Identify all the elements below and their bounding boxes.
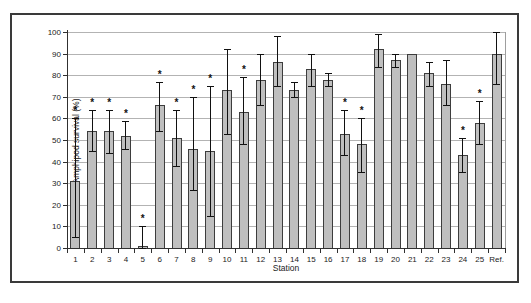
y-tick-label: 60	[25, 114, 61, 123]
error-bar	[395, 54, 396, 67]
y-tick-label: 40	[25, 158, 61, 167]
error-bar-cap-top	[341, 110, 348, 111]
error-bar-cap-bottom	[325, 86, 332, 87]
plot-right-border	[505, 32, 506, 248]
error-bar-cap-bottom	[375, 67, 382, 68]
error-bar-cap-top	[308, 54, 315, 55]
error-bar-cap-bottom	[224, 134, 231, 135]
error-bar-cap-top	[392, 54, 399, 55]
bar-station-20	[391, 60, 401, 248]
error-bar	[243, 77, 244, 144]
x-axis-tick	[168, 249, 169, 253]
error-bar-cap-top	[240, 77, 247, 78]
y-tick-label: 10	[25, 222, 61, 231]
y-tick-label: 90	[25, 50, 61, 59]
error-bar-cap-bottom	[341, 155, 348, 156]
significance-asterisk: *	[86, 98, 98, 108]
error-bar-cap-top	[274, 36, 281, 37]
bar-station-19	[374, 49, 384, 248]
y-tick-label: 100	[25, 28, 61, 37]
y-tick-label: 0	[25, 244, 61, 253]
error-bar-cap-top	[89, 110, 96, 111]
x-axis-tick	[353, 249, 354, 253]
x-axis-tick	[101, 249, 102, 253]
x-axis-tick	[421, 249, 422, 253]
error-bar-cap-bottom	[358, 172, 365, 173]
error-bar	[496, 32, 497, 84]
error-bar	[429, 62, 430, 86]
x-axis-tick	[370, 249, 371, 253]
y-axis-line	[67, 30, 68, 249]
x-axis-tick	[67, 249, 68, 253]
significance-asterisk: *	[474, 89, 486, 99]
error-bar-cap-top	[493, 32, 500, 33]
error-bar-cap-bottom	[493, 84, 500, 85]
error-bar-cap-bottom	[426, 86, 433, 87]
bar-station-23	[441, 84, 451, 248]
error-bar-cap-top	[224, 49, 231, 50]
bar-station-15	[306, 69, 316, 248]
significance-asterisk: *	[356, 106, 368, 116]
significance-asterisk: *	[171, 98, 183, 108]
y-tick-label: 50	[25, 136, 61, 145]
gridline	[67, 205, 505, 206]
error-bar-cap-top	[190, 97, 197, 98]
error-bar-cap-bottom	[207, 216, 214, 217]
x-axis-tick	[488, 249, 489, 253]
x-axis-tick	[454, 249, 455, 253]
significance-asterisk: *	[238, 65, 250, 75]
error-bar	[176, 110, 177, 166]
error-bar-cap-bottom	[122, 149, 129, 150]
significance-asterisk: *	[120, 109, 132, 119]
error-bar	[361, 118, 362, 172]
error-bar	[142, 226, 143, 248]
chart-figure: Amphipod survival (%)0102030405060708090…	[0, 0, 531, 303]
x-axis-tick	[286, 249, 287, 253]
gridline	[67, 97, 505, 98]
error-bar-cap-top	[459, 138, 466, 139]
error-bar	[75, 118, 76, 237]
error-bar	[227, 49, 228, 133]
x-axis-tick	[219, 249, 220, 253]
error-bar-cap-bottom	[443, 105, 450, 106]
plot-area: Amphipod survival (%)0102030405060708090…	[67, 32, 505, 248]
gridline	[67, 54, 505, 55]
x-axis-tick	[438, 249, 439, 253]
bar-station-22	[424, 73, 434, 248]
error-bar-cap-top	[443, 60, 450, 61]
error-bar-cap-top	[139, 226, 146, 227]
gridline	[67, 75, 505, 76]
y-tick-label: 70	[25, 93, 61, 102]
x-axis-tick	[118, 249, 119, 253]
error-bar-cap-bottom	[476, 144, 483, 145]
error-bar	[446, 60, 447, 105]
x-axis-tick	[134, 249, 135, 253]
error-bar-cap-top	[476, 101, 483, 102]
gridline	[67, 32, 505, 33]
x-axis-tick	[202, 249, 203, 253]
x-axis-tick	[320, 249, 321, 253]
significance-asterisk: *	[187, 85, 199, 95]
error-bar	[294, 82, 295, 97]
error-bar-cap-bottom	[308, 86, 315, 87]
bar-station-14	[289, 90, 299, 248]
error-bar-cap-top	[257, 54, 264, 55]
error-bar-cap-bottom	[274, 86, 281, 87]
error-bar	[328, 73, 329, 86]
y-axis-title: Amphipod survival (%)	[71, 86, 81, 196]
error-bar	[344, 110, 345, 155]
y-tick-label: 80	[25, 71, 61, 80]
bar-station-4	[121, 136, 131, 248]
x-axis-tick	[337, 249, 338, 253]
significance-asterisk: *	[103, 98, 115, 108]
error-bar-cap-bottom	[72, 237, 79, 238]
y-tick-label: 30	[25, 179, 61, 188]
error-bar-cap-top	[325, 73, 332, 74]
x-axis-title: Station	[67, 263, 505, 273]
significance-asterisk: *	[154, 70, 166, 80]
x-axis-tick	[404, 249, 405, 253]
bar-station-16	[323, 80, 333, 248]
error-bar-cap-bottom	[156, 131, 163, 132]
error-bar-cap-bottom	[291, 97, 298, 98]
bar-station-13	[273, 62, 283, 248]
